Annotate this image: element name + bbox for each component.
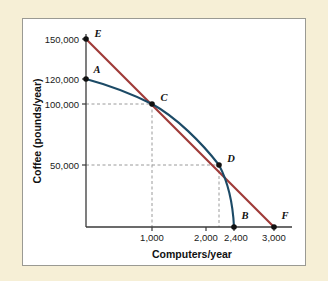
point-f-marker	[271, 224, 277, 230]
x-tick-label-3000: 3,000	[262, 232, 286, 243]
y-tick-label-120000: 120,000	[45, 74, 79, 85]
x-tick-label-2400: 2,400	[224, 232, 248, 243]
point-c-label: C	[160, 92, 168, 103]
production-possibilities-chart: 150,000 120,000 100,000 50,000 1,000 2,0…	[0, 0, 328, 281]
point-d-marker	[216, 162, 222, 168]
x-axis-title: Computers/year	[152, 248, 232, 260]
point-e-marker	[83, 36, 89, 42]
point-f-label: F	[280, 210, 288, 221]
point-d-label: D	[226, 153, 235, 164]
point-b-marker	[231, 224, 237, 230]
guide-lines	[86, 104, 219, 227]
y-axis-title: Coffee (pounds/year)	[31, 78, 43, 183]
budget-line-series	[86, 39, 274, 227]
y-tick-label-150000: 150,000	[45, 34, 79, 45]
axes	[86, 34, 292, 227]
point-b-label: B	[240, 210, 248, 221]
y-tick-label-50000: 50,000	[50, 160, 79, 171]
point-c-marker	[149, 101, 155, 107]
point-a-label: A	[92, 64, 100, 75]
point-a-marker	[83, 76, 89, 82]
x-tick-label-1000: 1,000	[140, 232, 164, 243]
y-tick-label-100000: 100,000	[45, 99, 79, 110]
x-tick-label-2000: 2,000	[194, 232, 218, 243]
point-e-label: E	[93, 28, 101, 39]
